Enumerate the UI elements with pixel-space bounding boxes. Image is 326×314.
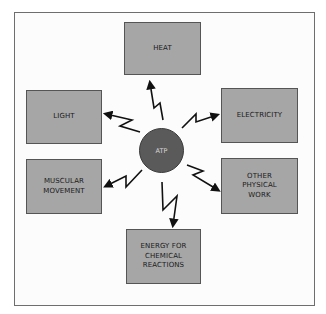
light-box: LIGHT	[26, 90, 102, 144]
heat-label: HEAT	[153, 44, 172, 54]
other-physical-work-box: OTHER PHYSICAL WORK	[221, 158, 298, 214]
light-label: LIGHT	[53, 112, 74, 122]
muscular-movement-label: MUSCULAR MOVEMENT	[43, 177, 84, 196]
electricity-box: ELECTRICITY	[221, 88, 298, 143]
muscular-movement-box: MUSCULAR MOVEMENT	[26, 159, 102, 214]
atp-label: ATP	[156, 147, 168, 155]
atp-circle: ATP	[139, 128, 184, 173]
energy-for-chemical-reactions-box: ENERGY FOR CHEMICAL REACTIONS	[126, 229, 201, 284]
energy-for-chemical-reactions-label: ENERGY FOR CHEMICAL REACTIONS	[141, 242, 187, 271]
electricity-label: ELECTRICITY	[237, 111, 282, 121]
heat-box: HEAT	[124, 22, 201, 75]
other-physical-work-label: OTHER PHYSICAL WORK	[242, 172, 277, 201]
